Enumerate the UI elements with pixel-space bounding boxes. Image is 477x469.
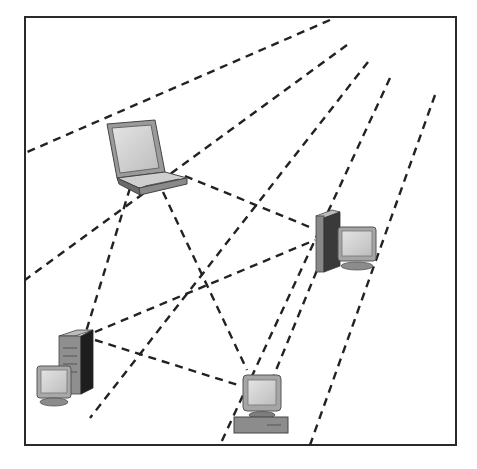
workstation-icon-left [37, 330, 93, 406]
signal-line [25, 45, 347, 280]
network-link [185, 176, 312, 228]
network-link [95, 240, 315, 332]
desktop-computer-icon [234, 375, 288, 433]
network-diagram [0, 0, 477, 469]
figure-caption [0, 447, 477, 467]
network-link [85, 188, 130, 335]
network-links [85, 176, 322, 385]
network-link [272, 258, 322, 380]
network-link [95, 340, 238, 385]
laptop-icon [107, 120, 187, 195]
workstation-icon-right [316, 210, 376, 272]
signal-line [25, 20, 330, 153]
network-link [163, 192, 247, 370]
